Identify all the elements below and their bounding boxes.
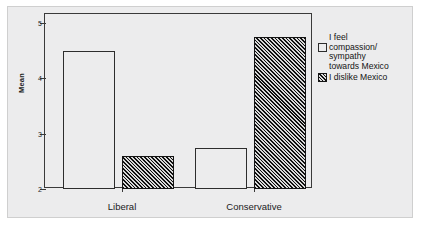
bar-liberal-compassion xyxy=(63,51,115,189)
y-tick-label-4: 4 xyxy=(38,75,42,82)
x-label-conservative: Conservative xyxy=(226,201,281,212)
chart-figure: Mean 2 3 4 5 Liberal Conse xyxy=(7,6,413,218)
legend-label-dislike: I dislike Mexico xyxy=(329,73,387,83)
bar-conservative-compassion xyxy=(195,148,247,190)
y-axis-title: Mean xyxy=(17,73,26,93)
y-tick-label-5: 5 xyxy=(38,20,42,27)
y-tick-label-2: 2 xyxy=(38,186,42,193)
legend-swatch-open-icon xyxy=(318,43,327,52)
y-tick-label-3: 3 xyxy=(38,130,42,137)
plot-area: 2 3 4 5 Liberal Conservative xyxy=(44,13,312,188)
legend-item-dislike: I dislike Mexico xyxy=(318,73,414,83)
legend-item-compassion: I feel compassion/ sympathy towards Mexi… xyxy=(318,33,414,71)
x-label-liberal: Liberal xyxy=(108,201,137,212)
chart-legend: I feel compassion/ sympathy towards Mexi… xyxy=(318,33,414,85)
bar-liberal-dislike xyxy=(122,156,174,189)
legend-label-compassion: I feel compassion/ sympathy towards Mexi… xyxy=(329,33,389,71)
legend-swatch-hatch-icon xyxy=(318,73,327,82)
bar-conservative-dislike xyxy=(254,37,306,189)
